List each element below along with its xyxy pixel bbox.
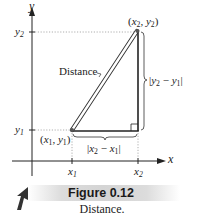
tick-label-x2: x2 [134,166,143,177]
distance-leader [97,73,101,77]
right-angle-marker [131,124,138,131]
tick-label-y1: y1 [15,124,24,135]
vertical-leg-label: |y2 − y1| [149,75,183,86]
figure-title: Figure 0.12 [0,186,198,200]
hypotenuse-inner [72,31,137,130]
tick-label-y2: y2 [15,26,24,37]
x-axis-label: x [168,153,173,165]
point-p2 [136,29,140,33]
point-label-p2: (x2, y2) [128,16,158,27]
vertical-leg-brace [141,32,147,130]
tick-label-x1: x1 [68,166,77,177]
figure-caption: Distance. [0,202,198,216]
y-axis-label: y [29,0,34,12]
horizontal-leg-brace [73,134,137,140]
horizontal-leg-label: |x2 − x1| [87,143,121,154]
x-axis-arrow-icon [157,158,166,164]
point-p1 [70,128,74,132]
hypotenuse-label: Distance [59,66,97,77]
point-label-p1: (x1, y1) [40,134,70,145]
